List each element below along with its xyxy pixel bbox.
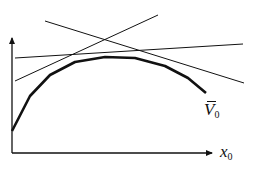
diagram-canvas: V0 x0 [0,0,256,169]
curve-label-sub: 0 [214,109,219,120]
curve-label: V0 [204,100,219,120]
nearly-flat-line [15,44,243,58]
falling-line [45,21,244,83]
x-axis-label-main: x [220,142,228,161]
overbar [207,101,216,102]
value-curve [12,57,206,131]
x-axis-label-sub: 0 [228,151,233,162]
diagram-svg [0,0,256,169]
rising-line [15,15,158,81]
curve-label-main: V [204,100,214,119]
x-axis-label: x0 [220,142,233,162]
